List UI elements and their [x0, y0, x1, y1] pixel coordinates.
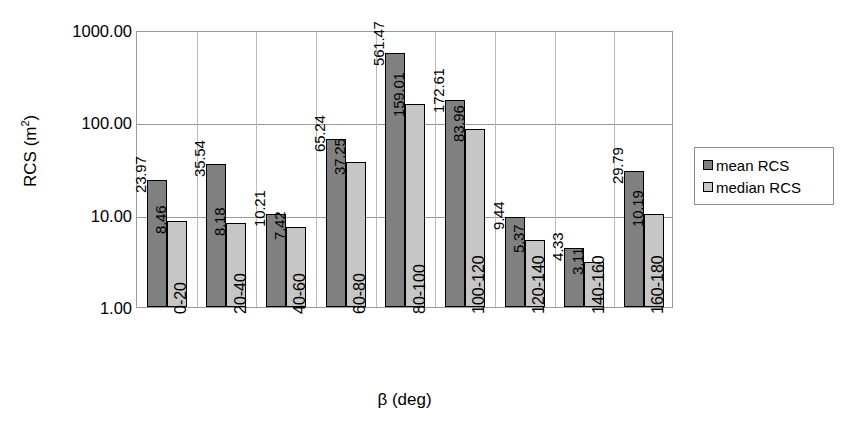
x-axis-title: β (deg): [136, 390, 673, 410]
rcs-bar-chart: RCS (m2) 1000.00100.0010.001.00 23.978.4…: [0, 0, 864, 428]
bar-value-label: 561.47: [371, 21, 386, 66]
bar-value-label: 35.54: [192, 140, 207, 177]
bar-value-label: 29.79: [610, 147, 625, 184]
bar-mean-rcs-0-20: [147, 180, 167, 307]
bar-value-label: 172.61: [431, 69, 446, 114]
chart-legend: mean RCSmedian RCS: [694, 147, 834, 205]
y-axis-tick-1000: 1000.00: [40, 23, 132, 39]
bar-value-label: 65.24: [312, 116, 327, 153]
bar-value-label: 37.25: [332, 138, 347, 175]
y-axis-tick-labels: 1000.00100.0010.001.00: [36, 0, 132, 428]
legend-label: median RCS: [716, 180, 801, 195]
bar-value-label: 7.42: [272, 211, 287, 239]
bar-group-0-20: 23.978.46: [137, 32, 197, 307]
x-axis-tick-160-180: 160-180: [650, 255, 666, 314]
x-axis-tick-60-80: 60-80: [352, 273, 368, 314]
legend-swatch-icon: [703, 182, 713, 192]
bar-value-label: 10.19: [630, 190, 645, 227]
bar-value-label: 5.37: [511, 224, 526, 252]
bar-value-label: 10.21: [252, 190, 267, 227]
bar-value-label: 8.46: [153, 206, 168, 234]
y-axis-tick-10: 10.00: [40, 208, 132, 224]
bar-value-label: 159.01: [391, 72, 406, 117]
bar-value-label: 83.96: [451, 106, 466, 143]
bar-value-label: 4.33: [550, 233, 565, 261]
legend-item-mean[interactable]: mean RCS: [703, 154, 833, 176]
y-axis-tick-1: 1.00: [40, 300, 132, 316]
bar-group-60-80: 65.2437.25: [316, 32, 376, 307]
x-axis-tick-labels: 0-2020-4040-6060-8080-100100-120120-1401…: [136, 308, 673, 388]
x-axis-tick-100-120: 100-120: [471, 255, 487, 314]
x-axis-tick-20-40: 20-40: [233, 273, 249, 314]
y-axis-tick-100: 100.00: [40, 115, 132, 131]
x-axis-tick-80-100: 80-100: [412, 264, 428, 314]
bar-group-40-60: 10.217.42: [256, 32, 316, 307]
legend-item-median[interactable]: median RCS: [703, 176, 833, 198]
legend-swatch-icon: [703, 160, 713, 170]
bar-value-label: 23.97: [133, 156, 148, 193]
bar-value-label: 8.18: [212, 207, 227, 235]
x-axis-tick-140-160: 140-160: [591, 255, 607, 314]
x-axis-tick-40-60: 40-60: [292, 273, 308, 314]
x-axis-tick-0-20: 0-20: [173, 282, 189, 314]
bar-value-label: 9.44: [491, 202, 506, 230]
bar-value-label: 3.11: [570, 247, 585, 274]
y-axis-title-exponent: 2: [19, 120, 31, 126]
legend-label: mean RCS: [716, 158, 789, 173]
x-axis-tick-120-140: 120-140: [531, 255, 547, 314]
bar-group-20-40: 35.548.18: [197, 32, 257, 307]
